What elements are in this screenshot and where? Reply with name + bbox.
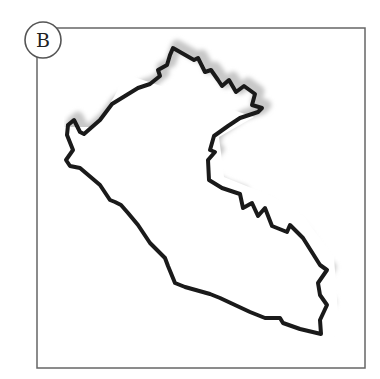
- outline-border: [66, 48, 327, 334]
- outline-shadow: [70, 45, 331, 331]
- map-figure: B: [0, 0, 380, 379]
- region-outline: [66, 45, 331, 334]
- panel-label: B: [25, 22, 61, 58]
- figure-frame: [37, 28, 365, 368]
- panel-letter: B: [36, 29, 50, 51]
